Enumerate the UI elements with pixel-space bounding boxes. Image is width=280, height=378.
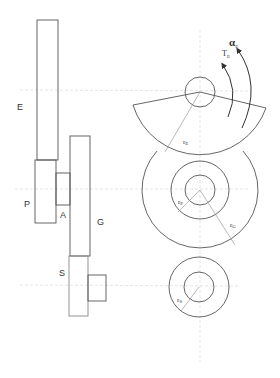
side-view xyxy=(35,20,106,316)
radius-g-line xyxy=(200,190,235,245)
gear-s-rect xyxy=(69,256,88,316)
label-e: E xyxy=(17,102,23,112)
label-r-s: rS xyxy=(177,296,182,304)
label-g: G xyxy=(97,217,104,227)
axis-line-e xyxy=(20,90,252,91)
gear-train-diagram: E P A G S rE rP rG rS TE αE xyxy=(0,0,280,378)
side-view-labels: E P A G S xyxy=(17,102,104,278)
rotation-arrows xyxy=(223,50,251,128)
label-r-p: rP xyxy=(178,198,183,206)
label-alpha: αE xyxy=(229,36,238,49)
alpha-arrow-icon xyxy=(238,50,251,128)
label-r-g: rG xyxy=(230,221,236,229)
label-s: S xyxy=(59,268,65,278)
label-p: P xyxy=(24,199,30,209)
front-view xyxy=(133,77,266,317)
gear-p-rect xyxy=(35,160,56,223)
radius-s-line xyxy=(181,287,199,311)
output-shaft-rect xyxy=(88,275,106,301)
axis-line-s xyxy=(20,285,240,286)
gear-e-sector xyxy=(133,92,266,155)
label-a: A xyxy=(60,210,66,220)
construction-lines xyxy=(15,30,252,362)
label-r-e: rE xyxy=(183,138,188,146)
label-torque: TE xyxy=(222,49,230,59)
gear-g-rect xyxy=(70,136,90,256)
